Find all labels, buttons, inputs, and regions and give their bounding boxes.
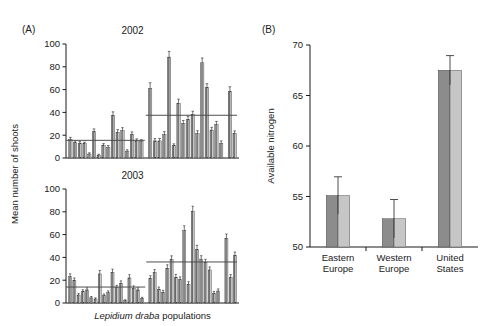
- panel-a-1-bar-united-states-2: [157, 289, 160, 303]
- panel-b-ytick-label-50: 50: [292, 241, 303, 252]
- panel-a-0-bar-united-states-9-fill-light: [193, 115, 195, 158]
- panel-a-1-bar-united-states-15: [212, 293, 215, 303]
- panel-a-1-bar-europe-1-fill-dark: [73, 281, 75, 303]
- panel-a-1-bar-united-states-12-fill-dark: [200, 259, 202, 303]
- panel-a-1-bar-united-states-15-fill-dark: [212, 293, 214, 303]
- panel-a-1-errorbar-europe-10: [111, 269, 113, 273]
- panel-a-1-bar-europe-10: [111, 273, 114, 303]
- panel-a-0-bar-europe-15-fill-light: [141, 141, 143, 158]
- panel-a-letter: (A): [22, 24, 35, 35]
- panel-a-0-bar-united-states-15-fill-light: [221, 143, 223, 158]
- panel-a-1-errorbar-united-states-0: [149, 276, 151, 279]
- panel-a-1-bar-europe-6-fill-light: [96, 299, 98, 303]
- panel-a-1-bar-united-states-6-fill-light: [176, 277, 178, 303]
- panel-a-1-bar-europe-16: [136, 290, 139, 303]
- panel-a-1-bar-united-states-8-fill-dark: [183, 231, 185, 303]
- panel-a-1-bar-united-states-cont--0: [225, 239, 228, 303]
- panel-a-1-errorbar-europe-12: [120, 281, 122, 284]
- panel-a-0-bar-europe-8-fill-dark: [107, 147, 109, 158]
- panel-a-1-errorbar-united-states-5: [170, 256, 172, 260]
- panel-a-1-bar-europe-2: [77, 295, 80, 303]
- panel-a-1-bar-united-states-6: [174, 277, 177, 303]
- panel-a-0-bar-europe-0: [69, 139, 72, 158]
- panel-a-1-ytick-label-20: 20: [49, 275, 60, 286]
- panel-a-1-bar-europe-12: [119, 284, 122, 303]
- panel-a-1-bar-europe-0-fill-light: [70, 277, 72, 303]
- panel-a-0-bar-united-states-13-fill-light: [212, 130, 214, 158]
- panel-a-0-bar-europe-8: [107, 147, 110, 158]
- panel-a-0-errorbar-europe-5: [93, 129, 96, 132]
- panel-a-1-errorbar-united-states-cont--0: [225, 234, 227, 239]
- panel-a-0-errorbar-europe-11: [121, 128, 124, 131]
- panel-a-0-bar-europe-6-fill-dark: [97, 155, 99, 158]
- panel-a-0-bar-united-states-0-fill-dark: [148, 88, 150, 158]
- panel-a-0-errorbar-europe-13: [131, 132, 134, 135]
- panel-a-1-errorbar-united-states-7: [179, 277, 181, 280]
- panel-a-1-bar-united-states-14-fill-light: [210, 270, 212, 303]
- panel-a-1-errorbar-united-states-cont--1: [230, 275, 232, 278]
- panel-a-1-errorbar-united-states-11: [196, 245, 198, 249]
- panel-a-1-bar-united-states-10: [191, 211, 194, 303]
- panel-b-y-axis-title: Available nitrogen: [265, 108, 276, 183]
- panel-a-1-bar-united-states-cont--2-fill-light: [235, 256, 237, 303]
- panel-a-1-bar-europe-9-fill-light: [108, 293, 110, 303]
- panel-a-1-bar-europe-8: [102, 296, 105, 303]
- panel-a-0-ytick-label-100: 100: [44, 38, 60, 49]
- panel-a-1-errorbar-united-states-1: [153, 270, 155, 273]
- panel-a-0-bar-europe-7: [102, 145, 105, 158]
- panel-a-0-ytick-label-20: 20: [49, 130, 60, 141]
- panel-a-0-bar-united-states-0: [148, 88, 151, 158]
- panel-b-ytick-label-60: 60: [292, 140, 303, 151]
- panel-a-1-bar-europe-10-fill-dark: [111, 273, 113, 303]
- panel-a-1-ytick-label-60: 60: [49, 229, 60, 240]
- panel-a-0-bar-united-states-2: [158, 141, 161, 158]
- panel-a-0-errorbar-united-states-10: [196, 131, 199, 134]
- panel-a-1-bar-europe-0-fill-dark: [69, 277, 71, 303]
- panel-a-0-bar-europe-12-fill-dark: [125, 151, 127, 158]
- panel-a-0-errorbar-united-states-3: [163, 132, 166, 135]
- panel-a-1-bar-europe-11-fill-light: [117, 288, 119, 303]
- panel-a-1-bar-europe-9: [107, 293, 110, 303]
- panel-a-0-bar-united-states-8: [186, 119, 189, 158]
- panel-a-0-bar-europe-0-fill-dark: [69, 139, 71, 158]
- panel-a-0-bar-europe-1-fill-light: [75, 143, 77, 158]
- panel-b-bar-0-fill-dark: [326, 195, 338, 247]
- panel-a-0-bar-united-states-12-fill-dark: [205, 87, 207, 158]
- panel-a-0-errorbar-united-states-cont--0: [229, 87, 232, 92]
- panel-a-0-bar-united-states-3-fill-dark: [163, 135, 165, 158]
- panel-a-0-bar-united-states-9: [191, 115, 194, 158]
- panel-a-0-bar-united-states-6-fill-light: [179, 103, 181, 158]
- panel-a-0-bar-europe-11-fill-light: [122, 131, 124, 158]
- panel-a-1-bar-united-states-1: [153, 273, 156, 303]
- panel-a-0-errorbar-united-states-15: [220, 141, 223, 143]
- panel-a-0-bar-europe-9-fill-dark: [111, 115, 113, 158]
- panel-a-1-bar-united-states-3-fill-light: [163, 292, 165, 303]
- panel-a-1-ytick-label-80: 80: [49, 206, 60, 217]
- panel-a-1-bar-united-states-8: [183, 231, 186, 303]
- panel-b-category-label-0-line-0: Eastern: [322, 252, 355, 263]
- panel-a-0-bar-united-states-10-fill-dark: [196, 133, 198, 158]
- panel-a-x-axis-title: Lepidium draba populations: [94, 310, 211, 321]
- panel-a-0-bar-europe-12-fill-light: [127, 151, 129, 158]
- panel-a-0-bar-europe-7-fill-light: [104, 145, 106, 158]
- panel-a-1-bar-united-states-10-fill-dark: [191, 211, 193, 303]
- panel-a-0-bar-europe-3-fill-dark: [83, 144, 85, 158]
- panel-a-0-errorbar-europe-3: [83, 142, 86, 144]
- panel-a-1-bar-united-states-cont--2: [233, 256, 236, 303]
- panel-a-0-bar-united-states-15: [219, 143, 222, 158]
- panel-a-1-bar-united-states-4-fill-light: [167, 268, 169, 303]
- panel-a-1-bar-united-states-5-fill-dark: [170, 260, 172, 303]
- panel-a-0-bar-united-states-11: [201, 63, 204, 158]
- panel-a-1-bar-europe-14: [128, 278, 131, 303]
- panel-a-1-ytick-label-100: 100: [44, 183, 60, 194]
- panel-a-1-bar-europe-2-fill-light: [79, 295, 81, 303]
- panel-a-0-bar-europe-14: [135, 141, 138, 158]
- panel-a-0-errorbar-europe-2: [79, 142, 82, 144]
- panel-a-1-bar-europe-9-fill-dark: [107, 293, 109, 303]
- panel-a-1-bar-united-states-2-fill-light: [159, 289, 161, 303]
- panel-a-1-errorbar-united-states-14: [209, 267, 211, 270]
- panel-a-1-bar-united-states-12-fill-light: [201, 259, 203, 303]
- panel-a-1-errorbar-europe-2: [77, 293, 79, 295]
- panel-a-1-bar-europe-5-fill-dark: [90, 298, 92, 303]
- panel-a-0-errorbar-europe-0: [69, 137, 72, 139]
